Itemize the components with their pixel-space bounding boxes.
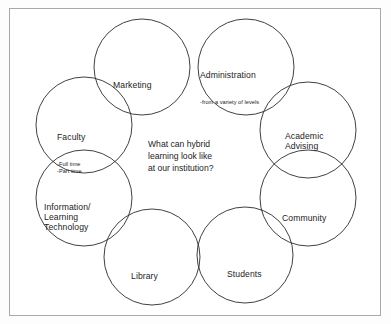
label-library: Library — [131, 252, 158, 300]
label-library-title: Library — [131, 271, 158, 281]
label-marketing: Marketing — [113, 61, 152, 109]
label-marketing-title: Marketing — [113, 80, 152, 90]
label-administration-sub: -from a variety of levels — [200, 99, 259, 106]
label-faculty-sub: -Full time -Part time — [57, 161, 85, 174]
label-community-title: Community — [282, 213, 326, 223]
label-faculty: Faculty -Full time -Part time — [57, 113, 85, 193]
label-academic-advising: Academic Advising — [285, 112, 324, 170]
label-academic-advising-title: Academic Advising — [285, 131, 324, 151]
label-community: Community — [282, 194, 326, 242]
label-administration-title: Administration — [200, 70, 259, 80]
label-students-title: Students — [227, 269, 262, 279]
label-students: Students — [227, 250, 262, 298]
label-faculty-title: Faculty — [57, 132, 85, 142]
center-question-text: What can hybrid learning look like at ou… — [148, 138, 244, 175]
label-information-learning-technology: Information/ Learning Technology — [44, 183, 91, 251]
diagram-canvas: Marketing Administration -from a variety… — [0, 0, 391, 324]
label-administration: Administration -from a variety of levels — [200, 51, 259, 125]
label-information-learning-technology-title: Information/ Learning Technology — [44, 202, 91, 232]
